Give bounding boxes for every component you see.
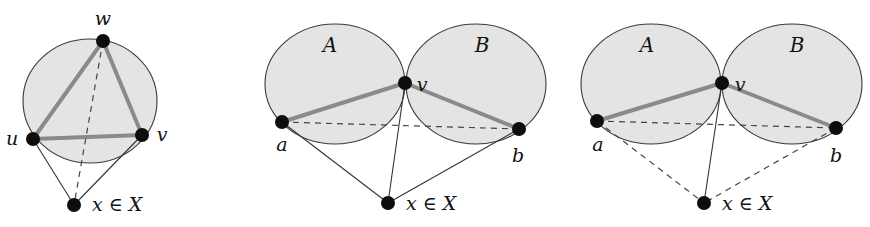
vertex-label-x: x ∈ X <box>406 192 458 214</box>
vertex-u <box>26 132 40 146</box>
diagram-figure: wuvx ∈ XABvabx ∈ XABvabx ∈ X <box>0 0 870 227</box>
vertex-label-v: v <box>735 73 746 95</box>
vertex-label-v: v <box>417 73 428 95</box>
vertex-b <box>512 122 526 136</box>
vertex-label-b: b <box>512 144 524 166</box>
vertex-x <box>697 196 711 210</box>
vertex-a <box>590 114 604 128</box>
vertex-label-x: x ∈ X <box>722 192 774 214</box>
region-label: A <box>638 33 654 57</box>
region-label: A <box>321 33 337 57</box>
vertex-w <box>96 34 110 48</box>
region-label: B <box>789 33 805 57</box>
vertex-label-a: a <box>276 133 287 155</box>
vertex-v <box>715 76 729 90</box>
vertex-label-u: u <box>6 127 18 149</box>
vertex-b <box>829 121 843 135</box>
vertex-v <box>135 128 149 142</box>
vertex-v <box>398 76 412 90</box>
vertex-label-a: a <box>592 133 603 155</box>
vertex-a <box>275 115 289 129</box>
vertex-x <box>67 198 81 212</box>
vertex-label-x: x ∈ X <box>92 193 144 215</box>
vertex-label-w: w <box>95 7 111 29</box>
vertex-label-v: v <box>157 123 168 145</box>
vertex-label-b: b <box>830 144 842 166</box>
region-label: B <box>474 33 490 57</box>
vertex-x <box>381 196 395 210</box>
